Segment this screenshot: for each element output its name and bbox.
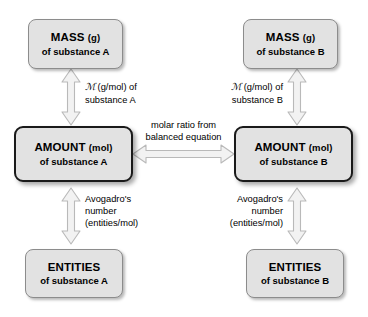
edge-label-mass-amount-b-line2: substance B: [231, 94, 283, 106]
arrow-mass-amount-b: [287, 69, 307, 125]
edge-label-amount-entities-b-line3: (entities/mol): [230, 217, 283, 229]
edge-label-amount-entities-b-line1: Avogadro's: [230, 193, 283, 205]
node-amount-a-subtitle: of substance A: [40, 156, 108, 167]
node-amount-a-title: AMOUNT (mol): [34, 141, 112, 155]
node-entities-a-subtitle: of substance A: [40, 275, 108, 286]
node-entities-a-title-text: ENTITIES: [48, 261, 101, 273]
node-mass-b-title-text: MASS: [266, 31, 300, 43]
edge-label-mass-amount-b-line1: ℳ (g/mol) of: [231, 81, 283, 94]
node-entities-a-title: ENTITIES: [48, 261, 101, 275]
node-entities-b-subtitle: of substance B: [261, 275, 329, 286]
node-mass-b: MASS (g) of substance B: [243, 19, 338, 69]
edge-label-amount-amount-line2: balanced equation: [128, 131, 239, 143]
node-entities-a: ENTITIES of substance A: [25, 249, 123, 298]
stoichiometry-diagram: MASS (g) of substance A MASS (g) of subs…: [0, 0, 368, 317]
node-amount-b-title-text: AMOUNT: [254, 141, 305, 153]
node-mass-a-unit: (g): [88, 32, 100, 43]
edge-label-amount-entities-b-line2: number: [230, 205, 283, 217]
node-entities-b: ENTITIES of substance B: [246, 249, 344, 298]
edge-label-amount-entities-a-line2: number: [85, 205, 138, 217]
node-amount-a-unit: (mol): [89, 142, 113, 153]
node-amount-a-title-text: AMOUNT: [34, 141, 85, 153]
edge-label-mass-amount-a-line1-rest: (g/mol) of: [95, 82, 137, 92]
arrow-mass-amount-a: [61, 69, 81, 125]
node-mass-a-title: MASS (g): [51, 31, 100, 45]
arrow-amount-a-amount-b: [133, 144, 234, 164]
node-amount-b-subtitle: of substance B: [259, 156, 327, 167]
edge-label-mass-amount-b: ℳ (g/mol) of substance B: [231, 81, 283, 106]
node-mass-a: MASS (g) of substance A: [28, 19, 123, 69]
node-amount-a: AMOUNT (mol) of substance A: [14, 126, 133, 182]
node-amount-b-title: AMOUNT (mol): [254, 141, 332, 155]
edge-label-amount-entities-a-line1: Avogadro's: [85, 193, 138, 205]
node-mass-b-unit: (g): [303, 32, 315, 43]
edge-label-amount-amount-line1: molar ratio from: [128, 119, 239, 131]
node-entities-b-title-text: ENTITIES: [269, 261, 322, 273]
edge-label-mass-amount-a: ℳ (g/mol) of substance A: [85, 81, 137, 106]
edge-label-mass-amount-a-line1: ℳ (g/mol) of: [85, 81, 137, 94]
edge-label-amount-amount: molar ratio from balanced equation: [128, 119, 239, 143]
node-mass-a-title-text: MASS: [51, 31, 85, 43]
node-amount-b-unit: (mol): [309, 142, 333, 153]
node-entities-b-title: ENTITIES: [269, 261, 322, 275]
edge-label-mass-amount-a-line2: substance A: [85, 94, 137, 106]
edge-label-amount-entities-a: Avogadro's number (entities/mol): [85, 193, 138, 229]
edge-label-amount-entities-a-line3: (entities/mol): [85, 217, 138, 229]
node-mass-b-subtitle: of substance B: [256, 46, 324, 57]
node-amount-b: AMOUNT (mol) of substance B: [234, 126, 353, 182]
edge-label-amount-entities-b: Avogadro's number (entities/mol): [230, 193, 283, 229]
molar-mass-symbol-a: ℳ: [85, 81, 95, 92]
arrow-amount-entities-a: [61, 188, 81, 244]
edge-label-mass-amount-b-line1-rest: (g/mol) of: [241, 82, 283, 92]
arrow-amount-entities-b: [287, 188, 307, 244]
molar-mass-symbol-b: ℳ: [231, 81, 241, 92]
node-mass-b-title: MASS (g): [266, 31, 315, 45]
node-mass-a-subtitle: of substance A: [42, 46, 110, 57]
